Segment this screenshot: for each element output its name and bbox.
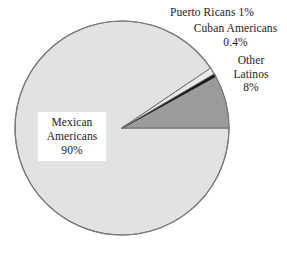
pie-label-cuban-americans-name: Cuban Americans <box>186 22 285 36</box>
pie-chart-figure: Puerto Ricans 1% Cuban Americans 0.4% Ot… <box>0 0 287 263</box>
pie-label-cuban-americans-value: 0.4% <box>186 36 285 50</box>
pie-label-other-latinos: Other Latinos 8% <box>218 54 284 95</box>
pie-label-puerto-ricans-text: Puerto Ricans 1% <box>170 6 254 20</box>
pie-label-mexican-americans: Mexican Americans 90% <box>38 112 106 161</box>
pie-label-other-latinos-line1: Other <box>218 54 284 68</box>
pie-label-puerto-ricans: Puerto Ricans 1% <box>170 6 254 20</box>
pie-label-mexican-americans-line1: Mexican <box>39 115 105 129</box>
pie-label-mexican-americans-line2: Americans <box>39 129 105 143</box>
pie-label-cuban-americans: Cuban Americans 0.4% <box>186 22 285 49</box>
pie-label-other-latinos-line2: Latinos <box>218 68 284 82</box>
pie-label-other-latinos-value: 8% <box>218 81 284 95</box>
pie-label-mexican-americans-value: 90% <box>39 143 105 157</box>
